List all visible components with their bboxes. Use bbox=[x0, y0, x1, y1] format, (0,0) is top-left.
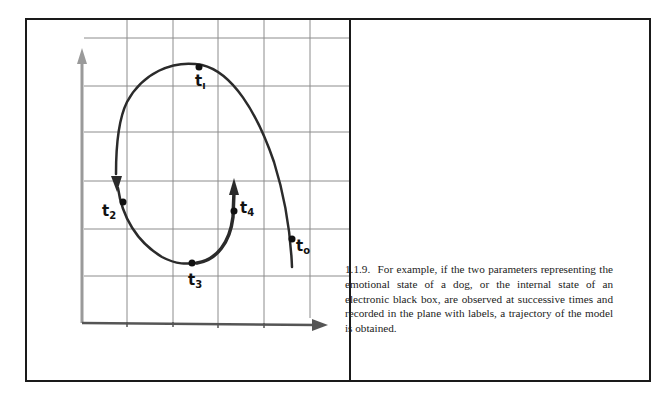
label-t3: 3 bbox=[195, 279, 202, 290]
trajectory-plot: to tı t2 t3 t4 bbox=[27, 20, 349, 380]
grid bbox=[84, 20, 349, 325]
svg-text:t4: t4 bbox=[240, 199, 254, 218]
trajectory-figure: to tı t2 t3 t4 bbox=[27, 20, 349, 380]
caption-text: For example, if the two parameters repre… bbox=[345, 263, 613, 334]
svg-text:tı: tı bbox=[195, 72, 206, 91]
caption-number: 1.1.9. bbox=[345, 263, 370, 275]
label-t0: o bbox=[303, 245, 310, 256]
y-axis bbox=[77, 48, 87, 323]
label-t1: ı bbox=[202, 80, 205, 91]
curve-arrow-down bbox=[111, 176, 122, 192]
figure-caption: 1.1.9. For example, if the two parameter… bbox=[345, 262, 613, 336]
trajectory-curve bbox=[116, 64, 292, 267]
svg-text:to: to bbox=[296, 237, 310, 256]
svg-text:t3: t3 bbox=[188, 271, 202, 290]
x-axis bbox=[82, 319, 328, 331]
svg-text:t2: t2 bbox=[102, 202, 116, 221]
label-t2: 2 bbox=[109, 210, 116, 221]
label-t4: 4 bbox=[247, 207, 254, 218]
trajectory-points bbox=[120, 64, 296, 267]
